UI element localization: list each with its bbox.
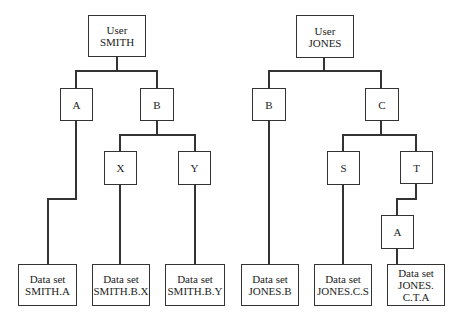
user-name: JONES xyxy=(308,37,341,49)
dataset-name: SMITH.B.Y xyxy=(167,285,222,297)
dataset-label: Data set xyxy=(103,273,139,285)
dataset-label: Data set xyxy=(398,267,434,279)
user-name: SMITH xyxy=(100,36,134,48)
dataset-name: SMITH.B.X xyxy=(93,285,148,297)
node-label: X xyxy=(117,162,125,174)
dataset-smith-a: Data set SMITH.A xyxy=(18,264,77,306)
dataset-name: JONES. xyxy=(398,279,434,291)
dataset-jones-c-t-a: Data set JONES. C.T.A xyxy=(387,264,445,306)
node-label: C xyxy=(378,99,385,111)
node-label: A xyxy=(394,226,402,238)
node-label: B xyxy=(265,99,272,111)
smith-node-x: X xyxy=(104,151,137,185)
node-label: Y xyxy=(191,162,199,174)
jones-node-t-a: A xyxy=(381,215,414,249)
jones-node-s: S xyxy=(327,151,360,185)
dataset-smith-b-y: Data set SMITH.B.Y xyxy=(165,264,225,306)
node-label: B xyxy=(153,99,160,111)
dataset-jones-c-s: Data set JONES.C.S xyxy=(314,264,372,306)
jones-node-b: B xyxy=(252,88,286,121)
jones-node-c: C xyxy=(365,88,399,121)
dataset-label: Data set xyxy=(252,273,288,285)
smith-node-b: B xyxy=(140,88,174,121)
user-label: User xyxy=(107,24,128,36)
node-label: S xyxy=(340,162,346,174)
dataset-label: Data set xyxy=(177,273,213,285)
dataset-label: Data set xyxy=(325,273,361,285)
dataset-smith-b-x: Data set SMITH.B.X xyxy=(92,264,150,306)
dataset-name: JONES.C.S xyxy=(317,285,369,297)
jones-node-t: T xyxy=(400,151,433,184)
user-label: User xyxy=(315,25,336,37)
dataset-name: SMITH.A xyxy=(25,285,70,297)
user-jones-node: User JONES xyxy=(296,15,354,58)
user-smith-node: User SMITH xyxy=(88,15,146,57)
node-label: A xyxy=(73,99,81,111)
dataset-name: JONES.B xyxy=(248,285,291,297)
dataset-label: Data set xyxy=(30,273,66,285)
dataset-name-cont: C.T.A xyxy=(403,291,430,303)
smith-node-y: Y xyxy=(178,151,211,185)
smith-node-a: A xyxy=(60,88,93,121)
dataset-jones-b: Data set JONES.B xyxy=(241,264,299,306)
node-label: T xyxy=(413,162,420,174)
